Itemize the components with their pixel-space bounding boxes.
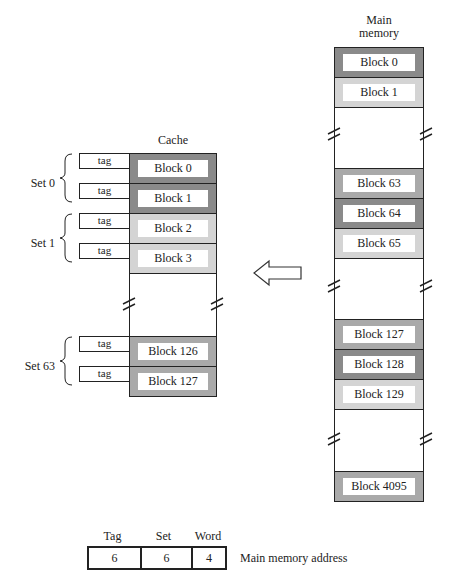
cache-block-label: Block 3 [138, 250, 208, 267]
cache-block-label: Block 127 [138, 373, 208, 390]
tag-field: tag [79, 213, 129, 229]
mm-block-label: Block 127 [343, 326, 415, 343]
set-label: Set 63 [15, 359, 55, 374]
cache-block-label: Block 0 [138, 160, 208, 177]
mm-block-label: Block 65 [343, 235, 415, 252]
address-word-bits: 4 [191, 548, 225, 568]
cache-title: Cache [129, 134, 217, 147]
break-mark-icon [326, 272, 436, 302]
address-format: 6 6 4 [87, 546, 227, 570]
address-set-bits: 6 [140, 548, 191, 568]
cache-block: Block 2 [129, 213, 217, 244]
cache-block: Block 1 [129, 183, 217, 214]
mm-block: Block 65 [334, 228, 424, 259]
mm-block: Block 63 [334, 168, 424, 199]
cache-block: Block 126 [129, 336, 217, 367]
cache-block: Block 0 [129, 153, 217, 184]
mm-block-label: Block 128 [343, 356, 415, 373]
tag-field: tag [79, 153, 129, 169]
break-mark-icon [326, 120, 436, 150]
address-field-label-set: Set [138, 530, 189, 543]
mm-block: Block 4095 [334, 471, 424, 502]
mm-block: Block 64 [334, 198, 424, 229]
set-label: Set 0 [15, 176, 55, 191]
cache-block-label: Block 1 [138, 190, 208, 207]
brace-icon [58, 336, 78, 386]
cache-block-label: Block 2 [138, 220, 208, 237]
cache-block-label: Block 126 [138, 343, 208, 360]
tag-field: tag [79, 243, 129, 259]
cache-block: Block 3 [129, 243, 217, 274]
address-tag-bits: 6 [89, 548, 140, 568]
mm-block-label: Block 64 [343, 205, 415, 222]
mm-block-label: Block 4095 [343, 478, 415, 495]
address-field-label-word: Word [189, 530, 227, 543]
left-arrow-icon [252, 258, 304, 288]
mm-block: Block 129 [334, 379, 424, 410]
tag-field: tag [79, 183, 129, 199]
tag-field: tag [79, 336, 129, 352]
address-field-label-tag: Tag [87, 530, 138, 543]
break-mark-icon [121, 290, 231, 320]
tag-field: tag [79, 366, 129, 382]
break-mark-icon [326, 425, 436, 455]
main-memory-title: Main memory [334, 14, 424, 40]
cache-block: Block 127 [129, 366, 217, 397]
set-label: Set 1 [15, 236, 55, 251]
address-caption: Main memory address [240, 551, 347, 566]
mm-block-label: Block 1 [343, 84, 415, 101]
mm-block-label: Block 0 [343, 54, 415, 71]
brace-icon [58, 153, 78, 203]
mm-block: Block 0 [334, 47, 424, 78]
mm-block: Block 128 [334, 349, 424, 380]
mm-block-label: Block 129 [343, 386, 415, 403]
mm-block-label: Block 63 [343, 175, 415, 192]
brace-icon [58, 213, 78, 263]
mm-block: Block 127 [334, 319, 424, 350]
main-memory-title-line2: memory [334, 27, 424, 40]
mm-block: Block 1 [334, 77, 424, 108]
